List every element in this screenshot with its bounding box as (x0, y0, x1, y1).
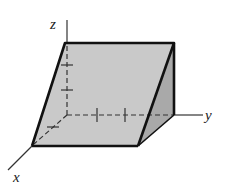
y-axis-label: y (203, 107, 212, 123)
z-axis-label: z (49, 16, 56, 32)
x-axis (8, 146, 32, 170)
x-axis-label: x (12, 169, 20, 185)
wedge-diagram: z y x (0, 0, 231, 187)
